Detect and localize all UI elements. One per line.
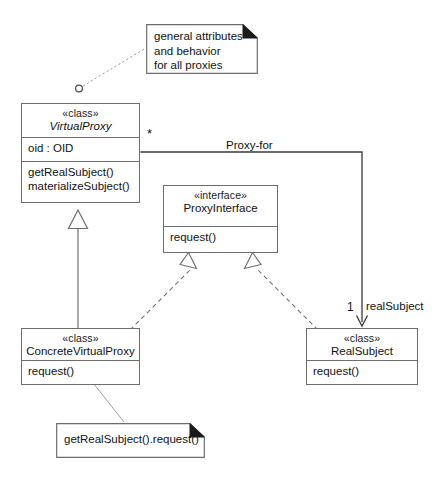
note-anchor-general <box>76 48 146 92</box>
class-operations-proxyinterface: request() <box>164 227 277 252</box>
class-box-virtualproxy[interactable]: «class» VirtualProxy oid : OID getRealSu… <box>21 103 140 203</box>
note-line: general attributes <box>154 29 250 44</box>
operation-row: request() <box>28 364 133 378</box>
class-header-concretevirtualproxy: «class» ConcreteVirtualProxy <box>22 329 139 361</box>
class-operations-virtualproxy: getRealSubject() materializeSubject() <box>22 162 139 201</box>
class-box-realsubject[interactable]: «class» RealSubject request() <box>306 328 418 385</box>
generalization-concretevirtualproxy-virtualproxy <box>69 210 88 328</box>
operation-row: getRealSubject() <box>28 165 133 179</box>
note-general-attributes-text: general attributes and behavior for all … <box>146 24 258 78</box>
operation-row: materializeSubject() <box>28 179 133 193</box>
realization-realsubject-proxyinterface <box>245 253 319 331</box>
role-name-realsubject: realSubject <box>366 300 424 312</box>
operation-row: request() <box>313 364 411 378</box>
attribute-row: oid : OID <box>28 141 133 155</box>
operation-row: request() <box>170 230 271 244</box>
realization-concretevirtualproxy-proxyinterface <box>130 253 197 331</box>
class-name: VirtualProxy <box>26 120 135 133</box>
multiplicity-target-proxy-for: 1 <box>347 300 354 314</box>
class-header-realsubject: «class» RealSubject <box>307 329 417 361</box>
class-name: RealSubject <box>311 345 413 358</box>
class-name: ConcreteVirtualProxy <box>26 345 135 358</box>
class-box-proxyinterface[interactable]: «interface» ProxyInterface request() <box>163 185 278 253</box>
class-box-concretevirtualproxy[interactable]: «class» ConcreteVirtualProxy request() <box>21 328 140 385</box>
note-request-body: getRealSubject().request() <box>56 423 205 458</box>
multiplicity-source-proxy-for: * <box>147 127 152 140</box>
note-request-body-text: getRealSubject().request() <box>56 423 205 452</box>
note-line: and behavior <box>154 44 250 59</box>
class-attributes-virtualproxy: oid : OID <box>22 138 139 162</box>
class-name: ProxyInterface <box>168 202 273 215</box>
note-line: getRealSubject().request() <box>64 432 197 447</box>
association-label-proxy-for: Proxy-for <box>226 139 273 151</box>
class-operations-realsubject: request() <box>307 361 417 385</box>
class-operations-concretevirtualproxy: request() <box>22 361 139 385</box>
class-stereotype: «class» <box>311 332 413 345</box>
class-header-virtualproxy: «class» VirtualProxy <box>22 104 139 138</box>
uml-diagram-canvas: general attributes and behavior for all … <box>0 0 444 479</box>
class-header-proxyinterface: «interface» ProxyInterface <box>164 186 277 227</box>
class-stereotype: «class» <box>26 332 135 345</box>
note-line: for all proxies <box>154 58 250 73</box>
class-stereotype: «interface» <box>168 189 273 202</box>
class-stereotype: «class» <box>26 107 135 120</box>
note-general-attributes: general attributes and behavior for all … <box>146 24 258 74</box>
